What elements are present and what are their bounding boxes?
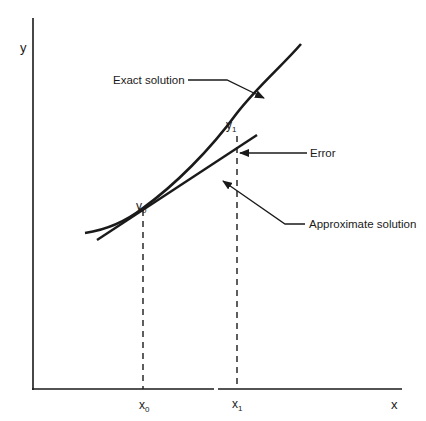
y-axis-label: y	[20, 40, 27, 55]
error-label: Error	[310, 147, 336, 159]
euler-method-diagram: y x x0 x1 y0 y1 Exact solution Error App…	[0, 0, 426, 421]
x0-label: x0	[139, 398, 150, 414]
exact-solution-curve	[85, 44, 301, 233]
x1-label: x1	[232, 397, 243, 413]
x-axis-label: x	[391, 397, 398, 412]
exact-solution-label: Exact solution	[113, 74, 185, 86]
approximate-solution-label: Approximate solution	[309, 218, 416, 230]
y0-label: y0	[136, 199, 147, 215]
approximate-solution-leader	[223, 181, 305, 224]
diagram-canvas: y x x0 x1 y0 y1 Exact solution Error App…	[0, 0, 426, 421]
y1-label: y1	[226, 118, 237, 134]
